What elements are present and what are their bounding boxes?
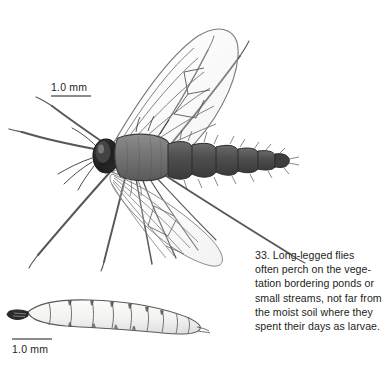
caption-line: small streams, not far from <box>255 291 387 305</box>
scale-bar-adult: 1.0 mm <box>51 81 91 97</box>
scale-bar-larva-rule <box>12 338 52 340</box>
caption-line: spent their days as larvae. <box>255 319 387 333</box>
larva-body <box>28 300 200 334</box>
caption-line: the moist soil where they <box>255 305 387 319</box>
fly-larva-illustration <box>4 288 216 342</box>
eye-highlight <box>98 145 104 154</box>
scale-bar-larva: 1.0 mm <box>12 338 52 355</box>
scale-bar-larva-label: 1.0 mm <box>12 343 48 355</box>
caption-line: tation bordering ponds or <box>255 276 387 290</box>
abdomen-segments <box>168 142 289 180</box>
larva-head <box>7 310 28 320</box>
caption-line: often perch on the vege- <box>255 262 387 276</box>
illustration-plate: 1.0 mm 1.0 mm 33. Long-legged flies ofte… <box>0 0 391 374</box>
adult-long-legged-fly-illustration <box>8 10 308 272</box>
scale-bar-adult-rule <box>51 95 91 97</box>
antennae-group <box>58 128 96 190</box>
scale-bar-adult-label: 1.0 mm <box>51 81 87 93</box>
figure-caption: 33. Long-legged flies often perch on the… <box>255 248 387 333</box>
caption-line: 33. Long-legged flies <box>255 248 387 262</box>
